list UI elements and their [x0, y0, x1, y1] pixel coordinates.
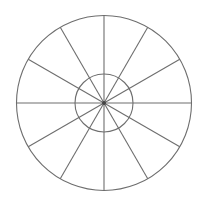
spoke-line: [60, 103, 104, 179]
spoke-line: [28, 59, 104, 103]
polar-grid-diagram: [0, 0, 204, 207]
polar-grid-svg: [0, 0, 204, 207]
spoke-line: [28, 103, 104, 147]
spoke-line: [104, 103, 148, 179]
spoke-line: [60, 27, 104, 103]
spoke-line: [104, 27, 148, 103]
spoke-line: [104, 103, 180, 147]
spoke-line: [104, 59, 180, 103]
center-dot: [102, 101, 106, 105]
